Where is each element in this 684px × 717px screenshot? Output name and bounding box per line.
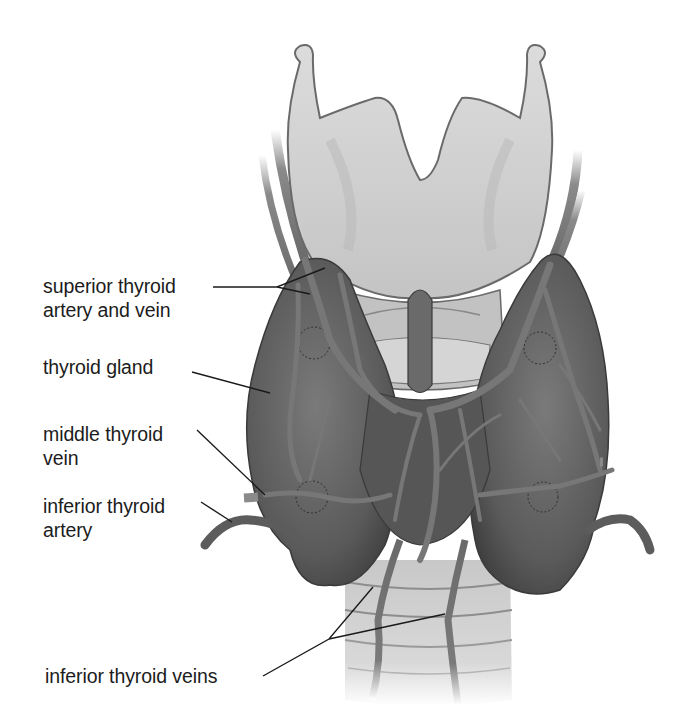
label-thyroid-gland: thyroid gland (43, 355, 153, 379)
label-line: inferior thyroid veins (45, 664, 217, 688)
label-line: vein (43, 446, 163, 470)
label-line: artery (43, 518, 165, 542)
label-line: artery and vein (43, 298, 176, 322)
pyramidal-lobe (408, 290, 432, 393)
label-inferior-thyroid-artery: inferior thyroid artery (43, 494, 165, 542)
label-line: thyroid gland (43, 355, 153, 379)
label-superior-thyroid-artery-and-vein: superior thyroid artery and vein (43, 274, 176, 322)
label-line: middle thyroid (43, 422, 163, 446)
leader-inferior-thyroid-artery (201, 502, 232, 522)
trachea (345, 560, 512, 706)
thyroid-anatomy-diagram: superior thyroid artery and vein thyroid… (0, 0, 684, 717)
label-inferior-thyroid-veins: inferior thyroid veins (45, 664, 217, 688)
label-line: superior thyroid (43, 274, 176, 298)
label-middle-thyroid-vein: middle thyroid vein (43, 422, 163, 470)
label-line: inferior thyroid (43, 494, 165, 518)
